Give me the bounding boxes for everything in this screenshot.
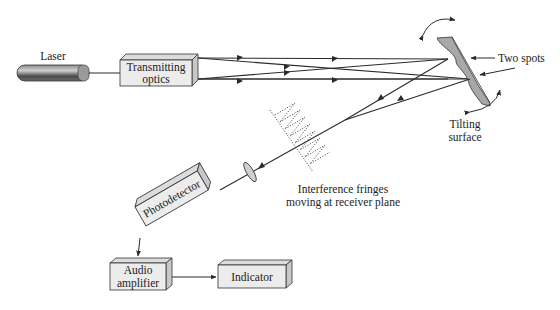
tilting-surface-label-2: surface <box>448 131 481 143</box>
receiver-lens <box>241 161 258 184</box>
laser: Laser <box>17 50 89 81</box>
transmitting-optics-label-2: optics <box>142 73 170 86</box>
outgoing-beams <box>198 58 470 79</box>
photodetector-box: Photodetector <box>132 163 214 226</box>
audio-amplifier-label-2: amplifier <box>117 277 159 290</box>
transmitting-optics-box: Transmitting optics <box>120 54 198 86</box>
edge-photodetector-amplifier <box>138 238 140 256</box>
spot-pointer-2 <box>480 68 515 75</box>
two-spots-label: Two spots <box>498 52 545 65</box>
tilt-arrow-top-icon <box>423 19 455 35</box>
interference-fringes <box>270 103 330 172</box>
fringes-label-2: moving at receiver plane <box>286 196 400 209</box>
fringes-label-1: Interference fringes <box>298 183 389 196</box>
tilting-surface <box>437 37 490 106</box>
indicator-label: Indicator <box>231 271 273 283</box>
audio-amplifier-label-1: Audio <box>124 264 153 276</box>
tilting-surface-label-1: Tilting <box>450 118 481 131</box>
indicator-box: Indicator <box>218 260 292 288</box>
reflected-arrows <box>258 94 404 169</box>
laser-label: Laser <box>40 50 66 62</box>
diagram-canvas: Laser Transmitting optics Two spots Tilt… <box>0 0 560 310</box>
audio-amplifier-box: Audio amplifier <box>110 258 172 290</box>
